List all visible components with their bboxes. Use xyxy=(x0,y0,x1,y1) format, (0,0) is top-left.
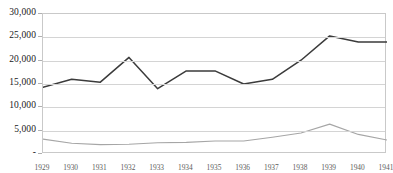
x-axis-tick-label: 1929 xyxy=(35,163,50,173)
x-axis-tick-label: 1931 xyxy=(92,163,107,173)
x-axis-tick-label: 1935 xyxy=(207,163,222,173)
gridline xyxy=(43,84,385,85)
y-axis-tick-label: 30,000 xyxy=(9,8,36,18)
x-axis-tick-label: 1938 xyxy=(293,163,308,173)
gridline xyxy=(43,37,385,38)
y-axis-tick-label: 15,000 xyxy=(9,78,36,88)
x-axis-tick-label: 1932 xyxy=(121,163,136,173)
x-axis-tick-label: 1939 xyxy=(321,163,336,173)
x-axis-tick-label: 1930 xyxy=(63,163,78,173)
x-axis-tick-label: 1933 xyxy=(149,163,164,173)
x-axis: 1929193019311932193319341935193619371938… xyxy=(42,163,386,173)
y-axis-tick-label: 20,000 xyxy=(9,55,36,65)
x-axis-tick-label: 1940 xyxy=(350,163,365,173)
x-axis-tick-label: 1934 xyxy=(178,163,193,173)
y-axis: -5,00010,00015,00020,00025,00030,000 xyxy=(0,0,40,173)
x-axis-tick-label: 1941 xyxy=(379,163,393,173)
y-axis-tick-mark xyxy=(38,153,42,154)
x-axis-tick-label: 1937 xyxy=(264,163,279,173)
gridline xyxy=(43,131,385,132)
y-axis-tick-label: 25,000 xyxy=(9,32,36,42)
x-axis-tick-label: 1936 xyxy=(235,163,250,173)
y-axis-tick-label: - xyxy=(33,148,36,158)
y-axis-tick-label: 5,000 xyxy=(14,125,36,135)
series-line-2 xyxy=(43,124,387,145)
gridline xyxy=(43,107,385,108)
series-line-1 xyxy=(43,36,387,89)
plot-area xyxy=(42,13,386,153)
gridline xyxy=(43,61,385,62)
y-axis-tick-label: 10,000 xyxy=(9,102,36,112)
